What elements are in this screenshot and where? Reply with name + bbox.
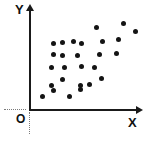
data-point xyxy=(99,76,104,81)
data-point xyxy=(87,82,92,87)
y-axis-arrow-icon xyxy=(26,4,34,11)
scatter-plot-figure: Y X O xyxy=(0,0,146,145)
data-point xyxy=(79,64,84,69)
data-point xyxy=(60,40,65,45)
data-point xyxy=(78,87,83,92)
y-axis-label: Y xyxy=(15,3,24,16)
data-point xyxy=(40,94,45,99)
data-point xyxy=(51,52,56,57)
data-point xyxy=(49,83,54,88)
data-point xyxy=(67,94,72,99)
data-point xyxy=(51,88,56,93)
data-point xyxy=(114,51,119,56)
data-point xyxy=(92,65,97,70)
data-point xyxy=(60,77,65,82)
origin-dotted-guide-down xyxy=(29,112,30,134)
x-axis-arrow-icon xyxy=(136,106,143,114)
data-point xyxy=(97,52,102,57)
origin-dotted-guide-left xyxy=(4,109,26,110)
data-point xyxy=(51,41,56,46)
data-point xyxy=(60,53,65,58)
origin-label: O xyxy=(16,113,25,125)
y-axis-line xyxy=(29,10,31,110)
data-point xyxy=(71,39,76,44)
data-point xyxy=(49,65,54,70)
data-point xyxy=(116,37,121,42)
x-axis-label: X xyxy=(128,116,137,129)
data-point xyxy=(79,41,84,46)
data-point xyxy=(121,21,126,26)
data-point xyxy=(100,39,105,44)
data-point xyxy=(94,25,99,30)
data-point xyxy=(62,65,67,70)
data-point xyxy=(75,53,80,58)
x-axis-line xyxy=(29,109,137,111)
data-point xyxy=(133,29,138,34)
